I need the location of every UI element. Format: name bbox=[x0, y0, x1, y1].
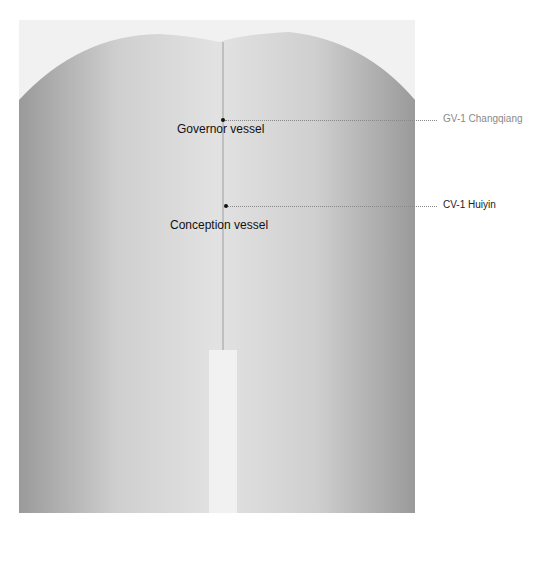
cv1-leader-line bbox=[228, 206, 437, 207]
conception-vessel-label: Conception vessel bbox=[170, 218, 268, 232]
body-silhouette bbox=[19, 20, 415, 513]
anatomy-figure bbox=[19, 20, 415, 513]
gv1-leader-line bbox=[225, 120, 437, 121]
gv1-callout-label: GV-1 Changqiang bbox=[443, 113, 523, 124]
cv1-callout-label: CV-1 Huiyin bbox=[443, 199, 496, 210]
governor-vessel-label: Governor vessel bbox=[177, 122, 264, 136]
